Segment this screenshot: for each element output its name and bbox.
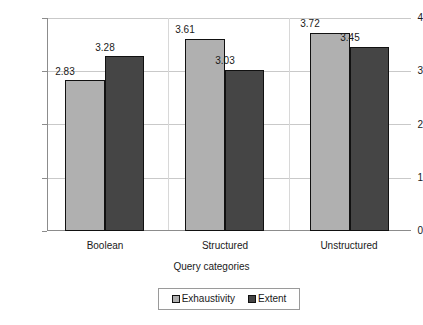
legend-item-exhaustivity: Exhaustivity bbox=[172, 294, 235, 304]
value-label-boolean-exhaustivity: 2.83 bbox=[42, 66, 88, 77]
gridline-4 bbox=[47, 18, 411, 19]
value-label-unstructured-exhaustivity: 3.72 bbox=[287, 18, 333, 29]
bar-structured-extent bbox=[225, 70, 264, 231]
bar-unstructured-exhaustivity bbox=[310, 33, 350, 231]
value-label-structured-exhaustivity: 3.61 bbox=[162, 24, 208, 35]
legend-swatch-icon-exhaustivity bbox=[172, 295, 180, 303]
chart-legend: Exhaustivity Extent bbox=[158, 288, 300, 310]
value-label-unstructured-extent: 3.45 bbox=[327, 32, 373, 43]
bar-chart: Exhaustivity/Extent 4 3 2 1 0 2.83 3.28 … bbox=[0, 0, 423, 325]
value-label-structured-extent: 3.03 bbox=[202, 55, 248, 66]
value-label-boolean-extent: 3.28 bbox=[82, 42, 128, 53]
legend-item-extent: Extent bbox=[248, 294, 286, 304]
category-divider-1 bbox=[168, 18, 169, 231]
x-tick-label-structured: Structured bbox=[165, 240, 285, 251]
x-tick-label-unstructured: Unstructured bbox=[289, 240, 409, 251]
y-tick-mark-0 bbox=[42, 231, 47, 232]
legend-label-extent: Extent bbox=[258, 294, 286, 304]
bar-boolean-extent bbox=[105, 56, 144, 231]
legend-swatch-icon-extent bbox=[248, 295, 256, 303]
x-axis-title: Query categories bbox=[0, 261, 423, 272]
bar-structured-exhaustivity bbox=[185, 39, 225, 231]
y-axis-line bbox=[47, 18, 48, 231]
bar-unstructured-extent bbox=[350, 47, 389, 231]
x-tick-label-boolean: Boolean bbox=[45, 240, 165, 251]
legend-label-exhaustivity: Exhaustivity bbox=[182, 294, 235, 304]
category-divider-2 bbox=[289, 18, 290, 231]
bar-boolean-exhaustivity bbox=[65, 80, 105, 231]
